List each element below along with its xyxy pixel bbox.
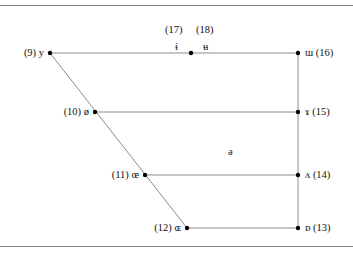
symbol-vowel-18: ʉ bbox=[203, 41, 208, 53]
label-vowel-16: ɯ (16) bbox=[305, 47, 333, 59]
vowel-point-central bbox=[189, 51, 193, 55]
label-vowel-15: ɤ (15) bbox=[305, 106, 330, 118]
vowel-point-turned-script-a bbox=[296, 226, 300, 230]
label-number-18: (18) bbox=[196, 24, 214, 36]
label-vowel-12: (12) ɶ bbox=[120, 222, 181, 234]
vowel-point-o-slash bbox=[93, 110, 97, 114]
symbol-schwa: ə bbox=[228, 146, 233, 158]
vowel-point-y bbox=[48, 51, 52, 55]
label-vowel-11: (11) œ bbox=[80, 169, 139, 181]
label-vowel-10: (10) ø bbox=[30, 106, 89, 118]
label-number-17: (17) bbox=[165, 24, 183, 36]
label-vowel-9: (9) y bbox=[0, 47, 44, 59]
vowel-point-rams-horn bbox=[296, 110, 300, 114]
vowel-point-turned-v bbox=[296, 173, 300, 177]
vowel-point-oe bbox=[143, 173, 147, 177]
label-vowel-14: ʌ (14) bbox=[305, 169, 330, 181]
label-vowel-13: ɒ (13) bbox=[305, 222, 331, 234]
vowel-trapezoid bbox=[0, 0, 353, 254]
symbol-vowel-17: ɨ bbox=[175, 41, 178, 53]
front-slope-line bbox=[50, 53, 187, 228]
vowel-point-OE bbox=[185, 226, 189, 230]
vowel-point-unrounded-u bbox=[296, 51, 300, 55]
